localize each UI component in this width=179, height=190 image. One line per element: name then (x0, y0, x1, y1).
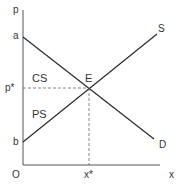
x-axis-label: x (169, 170, 174, 180)
origin-label: O (12, 170, 20, 180)
supply-curve-label: S (158, 24, 165, 34)
demand-curve-label: D (159, 140, 166, 150)
supply-intercept-label: b (13, 137, 19, 147)
equilibrium-price-label: p* (5, 83, 14, 93)
diagram-canvas (0, 0, 179, 190)
equilibrium-quantity-label: x* (84, 170, 93, 180)
supply-demand-diagram: p a p* b O x* x S D E CS PS (0, 0, 179, 190)
demand-intercept-label: a (13, 31, 19, 41)
y-axis-label: p (13, 5, 19, 15)
equilibrium-point-label: E (85, 73, 92, 84)
consumer-surplus-label: CS (32, 73, 47, 84)
producer-surplus-label: PS (32, 109, 47, 120)
